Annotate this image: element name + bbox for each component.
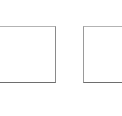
left-square-outline <box>0 26 56 83</box>
right-rectangle-outline <box>83 26 122 83</box>
drawing-canvas <box>0 0 122 116</box>
